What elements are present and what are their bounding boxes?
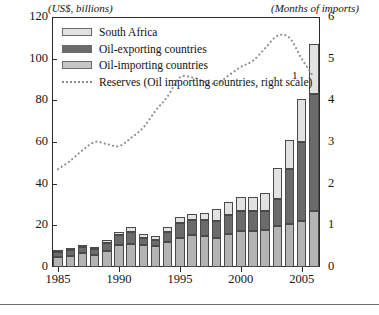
legend-swatch-icon-sa [62,28,92,36]
legend-swatch-icon-exp [62,45,92,53]
chart-legend: South AfricaOil-exporting countriesOil-i… [62,24,312,90]
legend-swatch-icon-line [62,78,92,86]
chart-figure: (US$, billions) (Months of imports) 1201… [0,0,379,315]
legend-item-2: Oil-exporting countries [62,41,312,58]
footnote-marker: 1 [292,69,298,81]
legend-swatch-icon-imp [62,61,92,69]
legend-item-4: Reserves (Oil importing countries, right… [62,74,312,91]
legend-label: South Africa [99,26,157,38]
legend-item-1: South Africa [62,24,312,41]
legend-item-3: Oil-importing countries [62,57,312,74]
bottom-rule [0,304,379,305]
legend-label: Reserves (Oil importing countries, right… [99,76,312,88]
legend-label: Oil-importing countries [99,59,208,71]
legend-label: Oil-exporting countries [99,43,207,55]
